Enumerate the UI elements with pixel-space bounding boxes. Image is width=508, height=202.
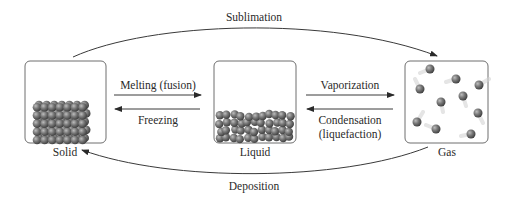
particle (452, 75, 461, 84)
particle (71, 103, 80, 112)
particle (222, 126, 230, 134)
gas-box (405, 61, 488, 143)
particle (215, 120, 223, 128)
particle (40, 136, 49, 145)
particle (33, 136, 42, 145)
particle (78, 119, 87, 128)
solid-particles (33, 101, 91, 145)
particle (48, 128, 57, 137)
particle (71, 111, 80, 120)
sublimation-label: Sublimation (224, 11, 284, 24)
liquid-label: Liquid (230, 146, 280, 159)
particle (56, 128, 65, 137)
particle (437, 98, 446, 107)
deposition-label: Deposition (224, 180, 284, 193)
particle (426, 65, 435, 74)
particle (33, 119, 42, 128)
particle (56, 136, 65, 145)
particle (71, 136, 80, 145)
particle (459, 92, 468, 101)
particle (223, 118, 231, 126)
particle (467, 130, 476, 139)
particle (474, 109, 483, 118)
particle (286, 120, 294, 128)
particle (40, 119, 49, 128)
condensation-label-line1: Condensation (303, 114, 397, 127)
particle (78, 128, 87, 137)
particle (40, 111, 49, 120)
particle (48, 136, 57, 145)
particle (40, 128, 49, 137)
particle (33, 128, 42, 137)
particle (222, 111, 230, 119)
particle (33, 103, 42, 112)
melting-label: Melting (fusion) (112, 79, 204, 92)
particle (63, 128, 72, 137)
gas-label: Gas (422, 146, 472, 159)
particle (56, 119, 65, 128)
solid-label: Solid (40, 146, 90, 159)
condensation-label-line2: (liquefaction) (303, 128, 397, 141)
particle (71, 119, 80, 128)
particle (286, 112, 294, 120)
particle (48, 119, 57, 128)
particle (230, 119, 238, 127)
particle (250, 128, 258, 136)
particle (285, 128, 293, 136)
particle (265, 119, 273, 127)
particle (33, 111, 42, 120)
particle (416, 85, 425, 94)
particle (63, 136, 72, 145)
particle (237, 126, 245, 134)
particle (71, 128, 80, 137)
particle (278, 111, 286, 119)
particle (78, 111, 87, 120)
particle (413, 118, 422, 127)
particle (48, 103, 57, 112)
freezing-label: Freezing (112, 114, 204, 127)
particle (236, 112, 244, 120)
particle (63, 103, 72, 112)
particle (56, 111, 65, 120)
particle (78, 136, 87, 145)
particle (56, 103, 65, 112)
particle (48, 111, 57, 120)
particle (475, 81, 484, 90)
particle (78, 103, 87, 112)
particle (265, 133, 273, 141)
particle (63, 111, 72, 120)
particle (432, 125, 441, 134)
particle (245, 113, 253, 121)
vaporization-label: Vaporization (303, 79, 397, 92)
particle (63, 119, 72, 128)
particle (271, 127, 279, 135)
phase-diagram (0, 0, 508, 202)
particle (236, 135, 244, 143)
sublimation-arrow (73, 28, 437, 57)
particle (40, 103, 49, 112)
